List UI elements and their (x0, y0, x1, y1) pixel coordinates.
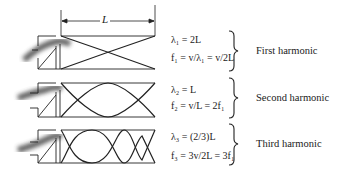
frequency-3-equation: f₃ = 3v/2L = 3f₁ (171, 150, 234, 161)
frequency-1-equation: f₁ = v/λ₁ = v/2L (171, 52, 234, 63)
pipe-first-harmonic (24, 36, 155, 69)
length-label: L (100, 13, 110, 25)
lambda-2-equation: λ₂ = L (171, 84, 196, 95)
lambda-1-equation: λ₁ = 2L (171, 34, 201, 45)
pipe-third-harmonic (18, 130, 155, 163)
lambda-3-equation: λ₃ = (2/3)L (171, 131, 216, 142)
third-harmonic-label: Third harmonic (256, 138, 322, 149)
frequency-2-equation: f₂ = v/L = 2f₁ (171, 100, 224, 111)
first-harmonic-label: First harmonic (256, 45, 318, 56)
second-harmonic-label: Second harmonic (256, 92, 329, 103)
pipe-second-harmonic (18, 83, 155, 117)
